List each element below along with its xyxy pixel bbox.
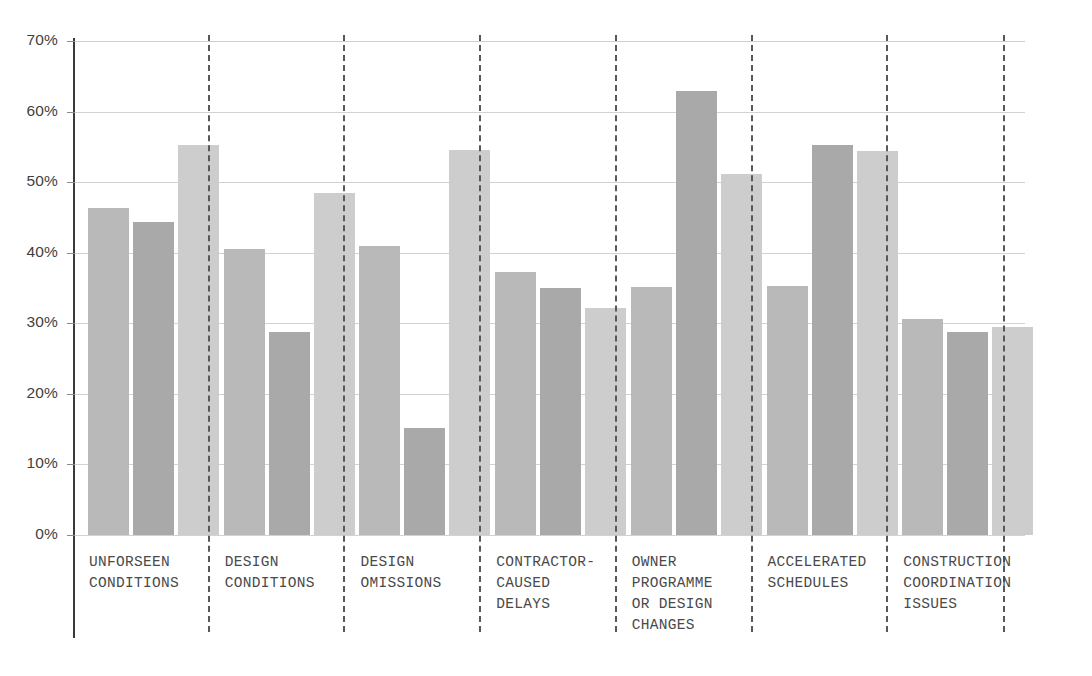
bar [88,208,129,535]
group-separator [479,35,481,632]
y-axis-line [73,38,75,638]
bar [585,308,626,535]
group-separator [886,35,888,632]
y-tick-mark [67,323,75,324]
y-axis-tick-label: 70% [0,31,58,49]
bar [767,286,808,535]
x-axis-category-label: UNFORSEEN CONDITIONS [89,552,179,594]
x-axis-category-label: DESIGN OMISSIONS [360,552,441,594]
bar [449,150,490,535]
y-axis-tick-label: 40% [0,243,58,261]
x-axis-category-label: DESIGN CONDITIONS [225,552,315,594]
x-axis-category-label: CONSTRUCTION COORDINATION ISSUES [903,552,1011,615]
y-tick-mark [67,253,75,254]
y-tick-mark [67,41,75,42]
group-separator [1003,35,1005,632]
group-separator [751,35,753,632]
bar [540,288,581,535]
bar [269,332,310,535]
bar [133,222,174,535]
bar [314,193,355,535]
group-separator [615,35,617,632]
x-axis-category-label: ACCELERATED SCHEDULES [768,552,867,594]
bar [812,145,853,535]
gridline-70 [75,41,1025,42]
bar [902,319,943,535]
y-tick-mark [67,464,75,465]
bar [676,91,717,535]
x-axis-category-label: OWNER PROGRAMME OR DESIGN CHANGES [632,552,713,636]
group-separator [343,35,345,632]
x-axis-category-label: CONTRACTOR- CAUSED DELAYS [496,552,595,615]
y-axis-tick-label: 50% [0,172,58,190]
bar [404,428,445,535]
bar [631,287,672,535]
bar [224,249,265,535]
y-axis-tick-label: 10% [0,454,58,472]
bar [178,145,219,535]
y-axis-tick-label: 20% [0,384,58,402]
y-tick-mark [67,112,75,113]
bar [857,151,898,535]
y-tick-mark [67,182,75,183]
y-axis-tick-label: 60% [0,102,58,120]
y-axis-tick-label: 0% [0,525,58,543]
group-separator [208,35,210,632]
bar-chart: 70%60%50%40%30%20%10%0%UNFORSEEN CONDITI… [0,0,1092,676]
bar [947,332,988,535]
gridline-0 [75,535,1025,536]
y-tick-mark [67,535,75,536]
y-axis-tick-label: 30% [0,313,58,331]
bar [359,246,400,535]
gridline-60 [75,112,1025,113]
y-tick-mark [67,394,75,395]
bar [495,272,536,535]
bar [992,327,1033,535]
bar [721,174,762,535]
